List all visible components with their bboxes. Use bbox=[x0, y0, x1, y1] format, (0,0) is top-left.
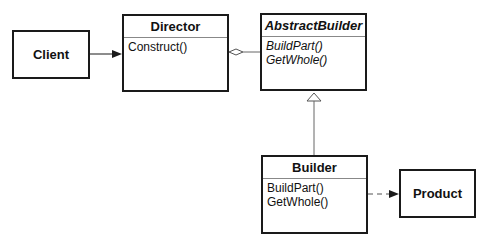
builder-class-name: Builder bbox=[263, 157, 366, 179]
operation: GetWhole() bbox=[266, 53, 365, 67]
builder-class: Builder BuildPart() GetWhole() bbox=[261, 155, 368, 234]
arrowhead-icon bbox=[112, 50, 122, 58]
abstractbuilder-operations: BuildPart() GetWhole() bbox=[262, 37, 365, 67]
operation: BuildPart() bbox=[267, 181, 366, 195]
client-director-association bbox=[90, 50, 122, 58]
abstractbuilder-class: AbstractBuilder BuildPart() GetWhole() bbox=[260, 13, 367, 91]
client-node: Client bbox=[12, 30, 90, 79]
product-node: Product bbox=[399, 169, 476, 218]
abstractbuilder-class-name: AbstractBuilder bbox=[262, 15, 365, 37]
inheritance-triangle-icon bbox=[307, 93, 321, 101]
operation: GetWhole() bbox=[267, 195, 366, 209]
builder-abstractbuilder-generalization bbox=[307, 93, 321, 155]
operation: Construct() bbox=[128, 40, 227, 54]
product-label: Product bbox=[413, 186, 462, 201]
aggregation-diamond-icon bbox=[229, 49, 243, 55]
builder-operations: BuildPart() GetWhole() bbox=[263, 179, 366, 209]
operation: BuildPart() bbox=[266, 39, 365, 53]
director-class-name: Director bbox=[124, 16, 227, 38]
builder-product-dependency bbox=[368, 190, 399, 198]
director-abstractbuilder-aggregation bbox=[229, 49, 260, 55]
director-class: Director Construct() bbox=[122, 14, 229, 92]
arrowhead-icon bbox=[389, 190, 399, 198]
client-label: Client bbox=[33, 47, 69, 62]
director-operations: Construct() bbox=[124, 38, 227, 54]
